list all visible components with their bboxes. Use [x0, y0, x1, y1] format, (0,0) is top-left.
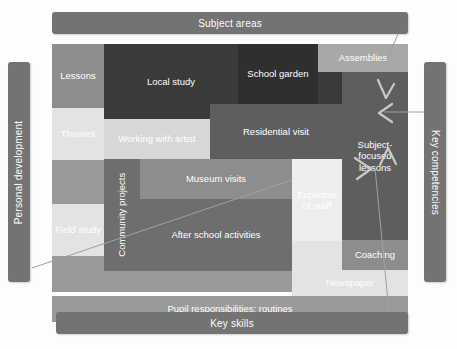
cell-coaching[interactable]: Coaching: [342, 240, 408, 270]
bar-personal-development-label: Personal development: [14, 120, 25, 224]
cell-working-with-artist[interactable]: Working with artist: [104, 119, 210, 159]
cell-school-garden[interactable]: School garden: [238, 44, 318, 104]
bar-key-skills-label: Key skills: [210, 318, 254, 329]
bar-subject-areas-label: Subject areas: [198, 18, 262, 29]
cell-field-study[interactable]: Field study: [52, 204, 104, 256]
cell-after-school-activities[interactable]: After school activities: [140, 199, 292, 271]
cell-expertise-of-staff-label: Expertise of staff: [294, 189, 340, 212]
cell-newspaper[interactable]: Newspaper: [292, 270, 408, 296]
bar-key-competencies[interactable]: Key competencies: [424, 62, 446, 282]
cell-newspaper-label: Newspaper: [326, 277, 374, 289]
cell-residential-visit-label: Residential visit: [243, 126, 309, 138]
cell-residential-visit[interactable]: Residential visit: [210, 104, 342, 159]
cell-themes[interactable]: Themes: [52, 108, 104, 160]
cell-assemblies-label: Assemblies: [339, 52, 388, 64]
cell-museum-visits[interactable]: Museum visits: [140, 159, 292, 199]
curriculum-matrix: Lessons Local study School garden Assemb…: [52, 44, 408, 292]
cell-working-with-artist-label: Working with artist: [118, 133, 195, 145]
cell-assemblies[interactable]: Assemblies: [318, 44, 408, 72]
cell-subject-focused-lessons-label: Subject-focused lessons: [344, 139, 406, 174]
cell-subject-focused-lessons[interactable]: Subject-focused lessons: [342, 72, 408, 240]
cell-filler-expertise-base: [292, 241, 342, 271]
cell-themes-label: Themes: [61, 128, 95, 140]
cell-community-projects[interactable]: Community projects: [104, 159, 140, 271]
cell-museum-visits-label: Museum visits: [186, 173, 246, 185]
bar-key-competencies-label: Key competencies: [430, 130, 441, 215]
cell-community-projects-label: Community projects: [116, 173, 128, 257]
cell-field-study-label: Field study: [55, 224, 101, 236]
cell-school-garden-label: School garden: [247, 68, 308, 80]
cell-after-school-activities-label: After school activities: [171, 229, 260, 241]
cell-lessons[interactable]: Lessons: [52, 44, 104, 108]
cell-expertise-of-staff[interactable]: Expertise of staff: [292, 159, 342, 241]
bar-subject-areas[interactable]: Subject areas: [52, 12, 408, 34]
bar-key-skills[interactable]: Key skills: [56, 312, 408, 334]
cell-filler-l3: [52, 160, 104, 204]
cell-coaching-label: Coaching: [355, 249, 395, 261]
diagram-canvas: Lessons Local study School garden Assemb…: [0, 0, 457, 349]
cell-lessons-label: Lessons: [60, 70, 95, 82]
cell-local-study-label: Local study: [147, 76, 195, 88]
bar-personal-development[interactable]: Personal development: [8, 62, 30, 282]
